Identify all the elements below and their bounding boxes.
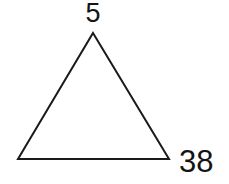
diagram-canvas: 5 38 xyxy=(0,0,229,184)
triangle-outline xyxy=(18,33,169,159)
apex-side-label: 5 xyxy=(78,0,108,27)
base-right-side-label: 38 xyxy=(179,146,213,177)
